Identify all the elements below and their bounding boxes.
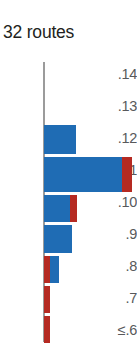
y-axis-tick-label: .8 — [98, 258, 137, 274]
bar-segment-red — [70, 195, 77, 222]
y-axis-tick-label: .13 — [98, 98, 137, 114]
y-axis-tick-label: ≤.6 — [98, 322, 137, 338]
bar-segment-blue — [44, 225, 72, 253]
plot-area: .14.13.12.11.10.9.8.7≤.6 — [0, 62, 137, 349]
y-axis-tick-label: .10 — [98, 194, 137, 210]
histogram-panel: 32 routes .14.13.12.11.10.9.8.7≤.6 — [0, 0, 137, 359]
bar-segment-blue — [44, 157, 122, 192]
bar-segment-red — [44, 286, 50, 313]
y-axis-tick-label: .14 — [98, 66, 137, 82]
chart-title: 32 routes — [3, 22, 74, 42]
bar-segment-blue — [44, 195, 70, 222]
bar-segment-red — [122, 157, 132, 192]
y-axis-tick-label: .12 — [98, 130, 137, 146]
y-axis-tick-label: .9 — [98, 226, 137, 242]
bar-segment-blue — [44, 125, 76, 154]
bar-segment-red — [44, 316, 50, 343]
y-axis-tick-label: .7 — [98, 290, 137, 306]
bar-segment-blue — [50, 256, 59, 283]
